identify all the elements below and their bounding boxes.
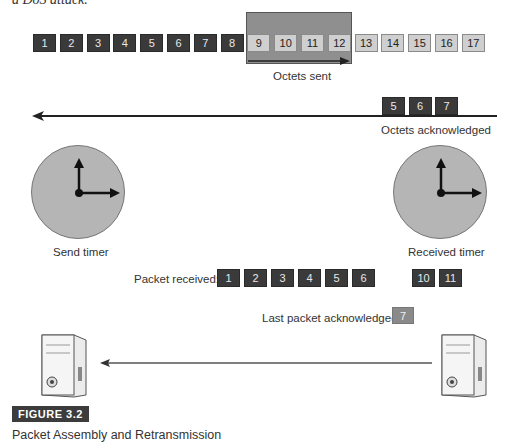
figure-caption: Packet Assembly and Retransmission: [12, 428, 221, 442]
octet-box: 5: [140, 34, 163, 52]
ack-octet-box: 6: [409, 97, 432, 115]
octet-box: 10: [274, 34, 297, 52]
octet-box: 2: [60, 34, 83, 52]
clock-hands-icon: [394, 146, 488, 240]
receiver-computer-icon: [438, 331, 490, 401]
octet-box: 4: [113, 34, 136, 52]
octet-box: 6: [167, 34, 190, 52]
top-note-text: a DoS attack.: [12, 0, 88, 8]
octet-box: 7: [194, 34, 217, 52]
received-timer-label: Received timer: [408, 246, 485, 258]
octets-ack-label: Octets acknowledged: [381, 124, 491, 136]
ack-octet-box: 5: [382, 97, 405, 115]
last-ack-label: Last packet acknowledged:: [262, 312, 401, 324]
clock-hands-icon: [32, 146, 126, 240]
transfer-arrow-icon: [100, 356, 435, 370]
received-packet-box: 6: [352, 269, 375, 287]
received-timer-clock: [393, 145, 487, 239]
octet-box: 1: [33, 34, 56, 52]
sender-computer-icon: [38, 331, 90, 401]
send-timer-label: Send timer: [53, 246, 109, 258]
octet-box: 12: [328, 34, 351, 52]
octet-box: 13: [355, 34, 378, 52]
packet-received-label: Packet received:: [134, 273, 219, 285]
received-packet-box: 5: [325, 269, 348, 287]
received-packet-box: 3: [271, 269, 294, 287]
octet-box: 15: [408, 34, 431, 52]
send-timer-clock: [31, 145, 125, 239]
octets-sent-label: Octets sent: [273, 70, 331, 82]
octet-box: 14: [381, 34, 404, 52]
received-packet-box: 11: [439, 269, 462, 287]
octet-box: 8: [221, 34, 244, 52]
octet-box: 3: [87, 34, 110, 52]
received-packet-box: 4: [298, 269, 321, 287]
octet-box: 9: [247, 34, 270, 52]
figure-badge: FIGURE 3.2: [12, 406, 89, 422]
ack-octet-box: 7: [435, 97, 458, 115]
last-ack-box: 7: [392, 307, 414, 324]
octet-box: 16: [435, 34, 458, 52]
octet-box: 11: [301, 34, 324, 52]
received-packet-box: 10: [412, 269, 435, 287]
received-packet-box: 1: [217, 269, 240, 287]
received-packet-box: 2: [244, 269, 267, 287]
octet-box: 17: [462, 34, 485, 52]
